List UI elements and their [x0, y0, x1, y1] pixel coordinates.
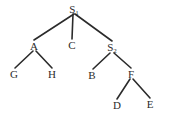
- tree-node-e: E: [147, 99, 154, 110]
- node-label-text: F: [128, 68, 134, 80]
- tree-node-a: A: [30, 41, 38, 52]
- tree-node-s1: S1: [69, 4, 79, 15]
- tree-node-g: G: [10, 69, 18, 80]
- tree-node-h: H: [48, 69, 56, 80]
- node-label-text: C: [68, 39, 75, 51]
- tree-node-c: C: [68, 40, 75, 51]
- node-label-text: E: [147, 98, 154, 110]
- tree-edge: [15, 51, 33, 68]
- node-label-text: G: [10, 68, 18, 80]
- node-label-text: D: [113, 99, 121, 111]
- tree-edge: [117, 79, 130, 99]
- node-label-text: A: [30, 40, 38, 52]
- syntax-tree-figure: S1ACS2GHBFDE: [0, 0, 172, 122]
- tree-node-d: D: [113, 100, 121, 111]
- tree-edge: [72, 14, 73, 39]
- node-label-text: H: [48, 68, 56, 80]
- tree-edge: [75, 14, 112, 41]
- tree-node-s2: S2: [107, 42, 117, 53]
- tree-edge: [34, 14, 74, 40]
- tree-edge: [133, 79, 150, 98]
- tree-edge: [93, 53, 110, 69]
- node-label-text: B: [88, 69, 95, 81]
- tree-node-b: B: [88, 70, 95, 81]
- tree-node-f: F: [128, 69, 134, 80]
- tree-edge: [114, 53, 131, 68]
- node-label-subscript: 2: [113, 47, 117, 55]
- node-label-subscript: 1: [75, 9, 79, 17]
- tree-edge: [36, 51, 52, 68]
